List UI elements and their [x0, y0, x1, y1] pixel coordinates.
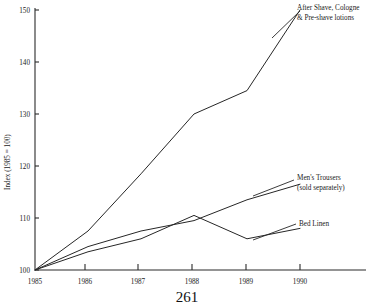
annotation-after-shave-line2: & Pre-shave lotions — [297, 14, 354, 22]
annotation-bed-linen-line1: Bed Linen — [299, 220, 330, 228]
annotation-mens-trousers-line1: Men's Trousers — [297, 174, 341, 182]
y-tick-label-140: 140 — [19, 59, 30, 67]
y-tick-label-110: 110 — [19, 215, 30, 223]
y-tick-label-150: 150 — [19, 7, 30, 15]
x-tick-label-1988: 1988 — [185, 278, 200, 286]
page-number: 261 — [176, 289, 199, 305]
chart-container: 150 140 130 120 110 100 Index (1985 = 10… — [0, 0, 375, 306]
y-axis-label: Index (1985 = 100) — [4, 134, 12, 190]
series-line-after-shave — [35, 10, 300, 270]
x-tick-marks — [85, 264, 300, 270]
y-tick-label-130: 130 — [19, 111, 30, 119]
leader-line-bed-linen — [253, 224, 296, 240]
x-tick-label-1987: 1987 — [131, 278, 146, 286]
x-tick-label-1990: 1990 — [293, 278, 308, 286]
leader-line-after-shave — [272, 11, 300, 38]
y-tick-label-100: 100 — [19, 267, 30, 275]
annotation-after-shave-line1: After Shave, Cologne — [297, 4, 359, 12]
x-tick-label-1986: 1986 — [78, 278, 93, 286]
x-tick-label-1985: 1985 — [28, 278, 43, 286]
line-chart: 150 140 130 120 110 100 Index (1985 = 10… — [0, 0, 375, 306]
series-line-bed-linen — [35, 215, 300, 270]
x-tick-label-1989: 1989 — [239, 278, 254, 286]
annotation-mens-trousers-line2: (sold separately) — [297, 184, 345, 192]
y-tick-marks — [35, 10, 39, 270]
y-tick-label-120: 120 — [19, 163, 30, 171]
